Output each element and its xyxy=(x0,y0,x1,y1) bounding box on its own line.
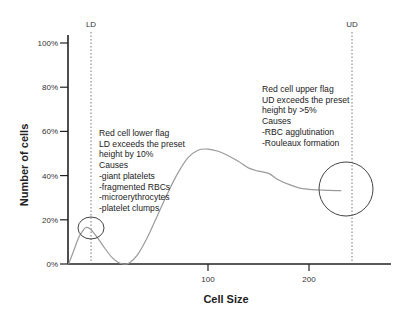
annotations: Red cell lower flagLD exceeds the preset… xyxy=(99,84,350,213)
x-tick-label: 200 xyxy=(302,275,316,284)
annotation-line: LD exceeds the preset xyxy=(99,139,186,149)
flag-label-ld: LD xyxy=(86,20,96,29)
y-tick-label: 60% xyxy=(42,127,58,136)
annotation-line: UD exceeds the preset xyxy=(262,95,350,105)
x-axis-title: Cell Size xyxy=(203,293,248,305)
upper-flag-circle xyxy=(319,162,373,216)
annotation-line: Causes xyxy=(99,160,128,170)
x-tick-label: 100 xyxy=(201,275,215,284)
annotation-line: -microerythrocytes xyxy=(99,192,170,202)
annotation-line: Red cell upper flag xyxy=(262,84,334,94)
annotation-line: -platelet clumps xyxy=(99,203,159,213)
annotation-lower: Red cell lower flagLD exceeds the preset… xyxy=(99,128,186,213)
y-axis-title: Number of cells xyxy=(18,124,30,207)
annotation-line: -RBC agglutination xyxy=(262,127,334,137)
flag-label-ud: UD xyxy=(346,20,358,29)
y-tick-label: 100% xyxy=(38,39,58,48)
y-tick-label: 20% xyxy=(42,216,58,225)
annotation-line: -fragmented RBCs xyxy=(99,182,170,192)
annotation-line: -giant platelets xyxy=(99,171,155,181)
annotation-line: height by >5% xyxy=(262,105,317,115)
annotation-line: -Rouleaux formation xyxy=(262,138,340,148)
annotation-line: height by 10% xyxy=(99,149,154,159)
tick-labels: 0%20%40%60%80%100%100200 xyxy=(38,39,317,284)
y-tick-label: 80% xyxy=(42,83,58,92)
y-tick-label: 40% xyxy=(42,172,58,181)
rbc-histogram-chart: LDUD 0%20%40%60%80%100%100200 Cell Size … xyxy=(0,0,409,320)
annotation-line: Causes xyxy=(262,116,291,126)
annotation-upper: Red cell upper flagUD exceeds the preset… xyxy=(262,84,350,148)
annotation-line: Red cell lower flag xyxy=(99,128,169,138)
y-tick-label: 0% xyxy=(46,260,58,269)
